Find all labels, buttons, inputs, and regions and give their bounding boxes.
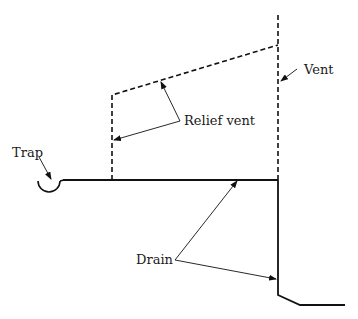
relief-vent-arrow-lower	[114, 121, 180, 140]
drain-arrow-lower	[175, 260, 276, 279]
trap-label: Trap	[12, 146, 43, 159]
vertical-drain-line	[278, 180, 345, 305]
trap-arrow	[39, 157, 51, 179]
trap-shape	[38, 181, 60, 192]
relief-vent-label: Relief vent	[184, 114, 255, 127]
drain-arrow-upper	[175, 181, 237, 260]
plumbing-diagram	[0, 0, 358, 319]
relief-vent-arrow-upper	[161, 82, 180, 121]
vent-arrow	[281, 69, 297, 81]
drain-label: Drain	[136, 253, 173, 266]
vent-label: Vent	[304, 63, 334, 76]
